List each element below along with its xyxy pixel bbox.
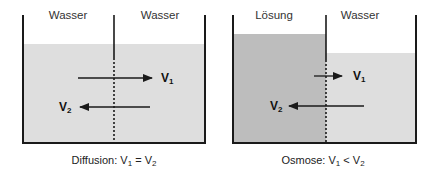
right-compartment-label: Wasser	[141, 9, 180, 21]
osmosis-diffusion-diagram: Wasser Wasser V1 V2 Diffusion: V1 = V2 L…	[0, 0, 432, 172]
osmosis-panel: Lösung Wasser V1 V2 Osmose: V1 < V2	[232, 9, 417, 168]
osmosis-caption: Osmose: V1 < V2	[281, 154, 365, 168]
left-compartment-fluid	[233, 34, 326, 143]
right-compartment-fluid	[326, 53, 416, 143]
right-compartment-label: Wasser	[341, 9, 380, 21]
left-compartment-label: Lösung	[255, 9, 293, 21]
diffusion-caption: Diffusion: V1 = V2	[72, 154, 157, 168]
left-compartment-label: Wasser	[49, 9, 88, 21]
left-compartment-fluid	[23, 44, 114, 143]
right-compartment-fluid	[114, 44, 205, 143]
diffusion-panel: Wasser Wasser V1 V2 Diffusion: V1 = V2	[22, 9, 206, 168]
